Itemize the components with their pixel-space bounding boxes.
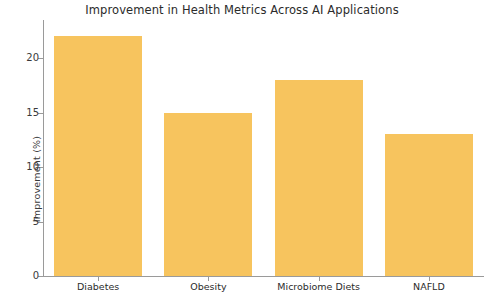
bar (54, 36, 142, 276)
y-axis-tick-label: 0 (33, 271, 39, 281)
x-axis-tick-label: Microbiome Diets (277, 282, 360, 292)
x-axis-tick-label: NAFLD (413, 282, 445, 292)
bar (385, 134, 473, 276)
y-axis-tick-label: 20 (26, 53, 39, 63)
bar (164, 113, 252, 276)
chart-title: Improvement in Health Metrics Across AI … (0, 3, 484, 17)
x-axis-tick-label: Obesity (190, 282, 226, 292)
y-axis-title-label: Improvement (%) (31, 119, 42, 239)
x-axis-spine (43, 276, 484, 277)
plot-area: 05101520 (43, 20, 484, 277)
y-axis-title: Improvement (%) (31, 119, 42, 179)
bar (275, 80, 363, 276)
y-axis-tick-label: 15 (26, 108, 39, 118)
x-axis-tick-label: Diabetes (77, 282, 119, 292)
bar-chart-figure: Improvement in Health Metrics Across AI … (0, 0, 484, 298)
y-axis-spine (43, 20, 44, 277)
